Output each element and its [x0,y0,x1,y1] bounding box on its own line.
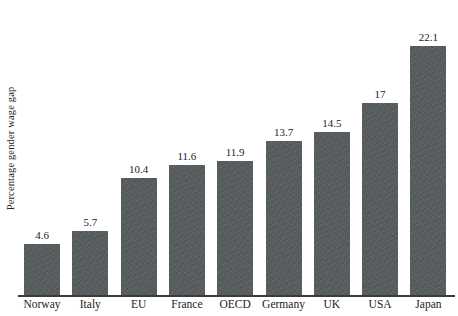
bar-group: 13.7 [266,0,302,296]
bar-group: 11.9 [217,0,253,296]
bar-group: 4.6 [24,0,60,296]
x-axis-line [18,295,455,297]
bar-group: 10.4 [121,0,157,296]
bar-value-label: 17 [348,88,412,100]
bar [169,165,205,296]
bar-value-label: 11.9 [203,146,267,158]
bar-value-label: 5.7 [58,216,122,228]
bar-group: 17 [362,0,398,296]
bar [410,46,446,296]
bar-value-label: 14.5 [300,117,364,129]
bar [266,141,302,296]
x-axis-tick-labels: NorwayItalyEUFranceOECDGermanyUKUSAJapan [18,298,454,316]
bar-chart: Percentage gender wage gap 4.65.710.411.… [0,0,458,316]
bar [314,132,350,296]
bars-layer: 4.65.710.411.611.913.714.51722.1 [18,0,454,296]
bar [72,231,108,296]
bar-value-label: 22.1 [396,31,458,43]
plot-area: 4.65.710.411.611.913.714.51722.1 [18,0,454,296]
y-axis-title-text: Percentage gender wage gap [6,86,17,210]
bar [24,244,60,296]
bar-group: 11.6 [169,0,205,296]
bar-group: 5.7 [72,0,108,296]
bar [217,161,253,296]
bar-value-label: 10.4 [107,163,171,175]
bar [121,178,157,296]
bar [362,103,398,296]
bar-group: 14.5 [314,0,350,296]
bar-value-label: 4.6 [10,229,74,241]
x-axis-label-japan: Japan [392,298,458,310]
bar-group: 22.1 [410,0,446,296]
